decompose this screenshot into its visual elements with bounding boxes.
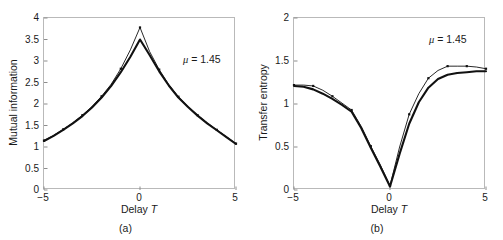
xtick-label: 0: [136, 192, 142, 203]
data-curve-upper-thin: [294, 66, 486, 186]
xtick-label: −5: [287, 192, 298, 203]
ytick-label: 1.5: [263, 55, 289, 66]
ytick-label: 0: [13, 184, 39, 195]
xtick-label: −5: [37, 192, 48, 203]
panel-a-annotation: μ = 1.45: [183, 53, 221, 65]
panel-a-xlabel: Delay T: [43, 203, 235, 215]
data-marker: [331, 95, 333, 97]
ytick-label: 2: [13, 98, 39, 109]
mu-symbol: μ: [429, 34, 434, 45]
panel-a-plot: [44, 18, 236, 190]
ytick-label: 1: [263, 98, 289, 109]
ytick-label: 2.5: [13, 76, 39, 87]
panel-b-caption: (b): [251, 222, 503, 234]
data-marker: [427, 77, 429, 79]
panel-a-caption: (a): [0, 222, 251, 234]
panel-b: Transfer entropy 00.511.52 −505 μ = 1.45…: [251, 0, 503, 240]
ytick-label: 2: [263, 12, 289, 23]
panel-a: Mutual information 00.511.522.533.54 −50…: [0, 0, 251, 240]
mu-value: = 1.45: [437, 33, 467, 45]
ytick-label: 0.5: [13, 162, 39, 173]
data-marker: [312, 85, 314, 87]
ytick-label: 0.5: [263, 141, 289, 152]
ytick-label: 1.5: [13, 119, 39, 130]
data-marker: [408, 113, 410, 115]
ytick-label: 0: [263, 184, 289, 195]
ytick-label: 4: [13, 12, 39, 23]
xtick-label: 5: [482, 192, 488, 203]
data-curve-lower-thick: [294, 71, 486, 186]
mu-value: = 1.45: [191, 53, 221, 65]
panel-a-xlabel-var: T: [151, 203, 157, 215]
panel-b-annotation: μ = 1.45: [429, 33, 467, 45]
xtick-label: 0: [386, 192, 392, 203]
data-marker: [447, 65, 449, 67]
panel-a-xlabel-text: Delay: [121, 203, 151, 215]
xtick-label: 5: [232, 192, 238, 203]
panel-b-xlabel-var: T: [401, 203, 407, 215]
panel-b-xlabel-text: Delay: [371, 203, 401, 215]
data-marker: [485, 68, 487, 70]
panel-a-axes: [43, 17, 235, 189]
figure-container: Mutual information 00.511.522.533.54 −50…: [0, 0, 503, 240]
ytick-label: 1: [13, 141, 39, 152]
mu-symbol: μ: [183, 54, 188, 65]
panel-b-xlabel: Delay T: [293, 203, 485, 215]
data-marker: [466, 65, 468, 67]
data-marker: [139, 26, 141, 28]
ytick-label: 3.5: [13, 33, 39, 44]
ytick-label: 3: [13, 55, 39, 66]
data-curve-upper-thin: [44, 27, 236, 143]
